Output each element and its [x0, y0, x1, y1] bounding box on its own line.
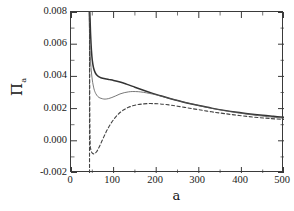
x-tick-label: 0 [56, 175, 84, 186]
y-axis-title-text: Πa [10, 78, 28, 96]
x-tick-label: 100 [98, 175, 126, 186]
series-dashed [90, 12, 284, 154]
x-axis-major-ticks [72, 12, 284, 173]
y-tick-label: 0.004 [43, 70, 67, 81]
plot-area [70, 11, 283, 172]
x-tick-label: 300 [183, 175, 211, 186]
y-axis-major-ticks [71, 13, 284, 173]
y-axis-title: Πa [6, 72, 32, 102]
y-tick-label: 0.000 [43, 135, 67, 146]
y-tick-label: 0.008 [43, 6, 67, 17]
figure-container: 0.008 0.006 0.004 0.002 0.000 -0.002 Πa [0, 0, 294, 211]
y-tick-label: 0.002 [43, 103, 67, 114]
chart-canvas [71, 12, 284, 173]
x-tick-label: 200 [141, 175, 169, 186]
x-tick-label: 400 [226, 175, 254, 186]
series-thick-solid [90, 12, 284, 117]
x-tick-label: 500 [268, 175, 294, 186]
x-axis-title: a [70, 189, 283, 202]
data-series-layer [89, 12, 284, 173]
y-tick-label: 0.006 [43, 38, 67, 49]
x-axis-minor-ticks [92, 12, 262, 173]
